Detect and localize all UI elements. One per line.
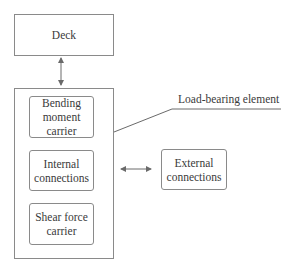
leader-line [114, 109, 281, 132]
shear-force-carrier-label: Shear force carrier [33, 210, 91, 238]
external-connections-label: External connections [163, 156, 225, 184]
deck-label: Deck [52, 28, 76, 42]
deck-box: Deck [14, 14, 114, 56]
external-connections-box: External connections [161, 149, 227, 190]
bending-moment-carrier-label: Bending moment carrier [35, 96, 89, 138]
bending-moment-carrier-box: Bending moment carrier [29, 96, 94, 138]
internal-connections-box: Internal connections [29, 150, 94, 191]
internal-connections-label: Internal connections [31, 157, 93, 185]
shear-force-carrier-box: Shear force carrier [29, 203, 94, 245]
load-bearing-element-label: Load-bearing element [178, 93, 279, 105]
